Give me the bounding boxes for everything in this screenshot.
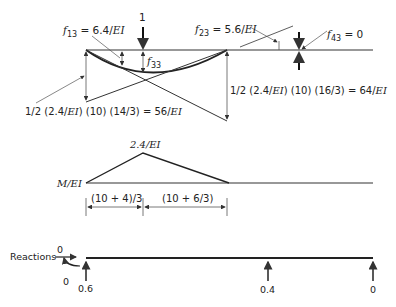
peak-label: 2.4/EI bbox=[130, 140, 161, 150]
f23-label: f23 = 5.6/EI bbox=[195, 24, 257, 38]
dim-right-label: (10 + 6/3) bbox=[162, 194, 213, 204]
reaction-value-1: 0.6 bbox=[78, 284, 93, 294]
structural-diagram bbox=[0, 0, 396, 307]
load-label: 1 bbox=[139, 12, 146, 23]
moment-diagram bbox=[86, 153, 373, 216]
reaction-value-3: 0 bbox=[370, 285, 376, 295]
left-reaction-formula: 1/2 (2.4/EI) (10) (14/3) = 56/EI bbox=[25, 107, 182, 117]
moment-reaction-value: 0 bbox=[63, 277, 69, 287]
f33-label: f33 bbox=[147, 56, 161, 70]
reaction-value-2: 0.4 bbox=[260, 285, 275, 295]
reactions-beam bbox=[55, 257, 373, 281]
f13-label: f13 = 6.4/EI bbox=[63, 25, 125, 39]
f43-label: f43 = 0 bbox=[327, 29, 363, 43]
horizontal-reaction-value: 0 bbox=[57, 245, 63, 255]
m-ei-axis-label: M/EI bbox=[57, 179, 82, 189]
right-reaction-formula: 1/2 (2.4/EI) (10) (16/3) = 64/EI bbox=[230, 86, 387, 96]
dim-left-label: (10 + 4)/3 bbox=[91, 194, 142, 204]
reactions-label: Reactions bbox=[10, 252, 56, 262]
